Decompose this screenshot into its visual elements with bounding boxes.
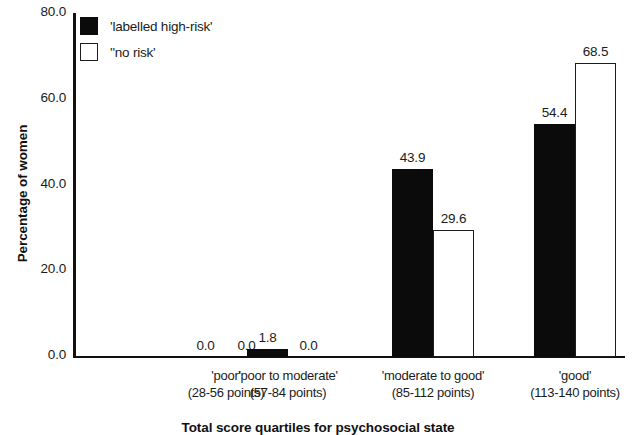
category-name: 'poor to moderate' [238,368,337,383]
y-axis-tick-text: 80.0 [0,4,66,19]
y-axis-tick-label: 0.0 [0,347,66,363]
legend-label: 'labelled high-risk' [110,19,212,34]
y-axis-tick-text: 20.0 [0,261,66,276]
category-name: 'moderate to good' [382,368,484,383]
legend-item-no-risk: ''no risk' [80,39,212,65]
legend-item-labelled-high-risk: 'labelled high-risk' [80,13,212,39]
y-axis-tick-label: 60.0 [0,90,66,106]
legend-swatch-icon-white [80,43,98,61]
category-name: 'good' [559,368,591,383]
bar [392,169,433,357]
y-axis-tick-label: 80.0 [0,4,66,20]
category-range: (113-140 points) [485,385,636,402]
legend-label: ''no risk' [110,45,156,60]
bar-value-label: 0.0 [278,338,339,353]
legend-swatch-icon-black [80,17,98,35]
y-axis-tick-text: 60.0 [0,90,66,105]
bar-value-label: 29.6 [423,211,484,226]
legend: 'labelled high-risk' ''no risk' [80,13,212,65]
y-axis-tick-label: 20.0 [0,261,66,277]
x-axis-title: Total score quartiles for psychosocial s… [0,420,636,435]
bar-value-label: 68.5 [565,44,626,59]
x-axis-category-label: 'good'(113-140 points) [485,368,636,401]
bar [575,63,616,357]
bar [433,230,474,357]
y-axis-tick-label: 40.0 [0,176,66,192]
bar [534,124,575,357]
y-axis-tick-text: 0.0 [0,347,66,362]
y-axis-tick-text: 40.0 [0,176,66,191]
bar-value-label: 43.9 [382,150,443,165]
